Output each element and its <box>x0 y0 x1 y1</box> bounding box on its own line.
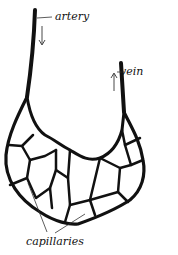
capillary <box>122 130 131 165</box>
capillary <box>9 135 33 146</box>
capillary <box>56 150 70 178</box>
capillary <box>90 200 95 215</box>
capillary <box>22 146 56 160</box>
artery-vessel <box>27 10 35 97</box>
artery-label: artery <box>55 11 89 22</box>
bed-inner-wall <box>27 97 124 159</box>
vein-flow-arrow-icon <box>111 73 117 91</box>
capillary-bed-diagram: artery vein capillaries <box>0 0 178 255</box>
vein-label: vein <box>120 66 143 77</box>
capillary <box>90 192 128 202</box>
capillaries-label: capillaries <box>26 236 84 247</box>
artery-leader-line <box>37 17 52 18</box>
capillary <box>65 178 70 222</box>
artery-flow-arrow-icon <box>39 26 45 45</box>
capillary <box>100 158 120 192</box>
capillary-bed-drawing <box>0 0 178 255</box>
capillary <box>50 188 52 208</box>
capillary <box>10 160 30 185</box>
